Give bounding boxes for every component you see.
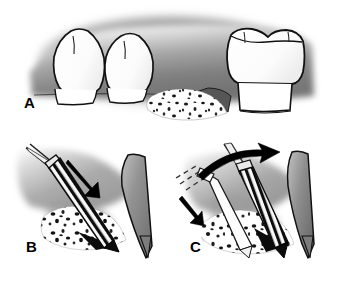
figure-canvas: A [0, 0, 340, 284]
premolar-tooth-right [105, 34, 153, 104]
panel-c: C [176, 143, 314, 258]
premolar-tooth-left [54, 29, 105, 105]
dental-illustration-figure: A [0, 0, 340, 284]
gingival-collar-left [55, 89, 97, 105]
panel-b-label: B [26, 238, 37, 255]
gingival-collar-right [107, 88, 147, 103]
panel-c-label: C [190, 238, 201, 255]
panel-a-label: A [24, 94, 35, 111]
molar-root-trunk [238, 83, 292, 112]
